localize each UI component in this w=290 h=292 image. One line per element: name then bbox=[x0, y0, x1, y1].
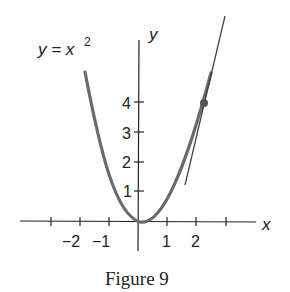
svg-text:−2: −2 bbox=[62, 233, 80, 250]
x-tick-labels: −2 −1 1 2 bbox=[62, 233, 200, 250]
svg-text:2: 2 bbox=[122, 154, 131, 171]
svg-text:2: 2 bbox=[191, 233, 200, 250]
svg-text:−1: −1 bbox=[92, 233, 110, 250]
svg-text:3: 3 bbox=[122, 125, 131, 142]
svg-text:1: 1 bbox=[123, 183, 132, 200]
curve-label-exponent: 2 bbox=[84, 35, 91, 49]
svg-text:1: 1 bbox=[162, 233, 171, 250]
parabola-curve bbox=[85, 72, 211, 222]
tangency-point bbox=[200, 99, 208, 107]
curve-label: y = x bbox=[37, 40, 75, 59]
y-tick-labels: 4 3 2 1 bbox=[122, 95, 132, 200]
svg-text:4: 4 bbox=[122, 95, 131, 112]
y-axis-label: y bbox=[148, 25, 159, 44]
y-axis bbox=[138, 40, 139, 251]
x-axis-label: x bbox=[261, 215, 271, 234]
figure-canvas: y = x 2 y x 4 3 2 1 −2 −1 1 2 Figure 9 bbox=[0, 0, 290, 292]
figure-caption: Figure 9 bbox=[105, 268, 169, 289]
